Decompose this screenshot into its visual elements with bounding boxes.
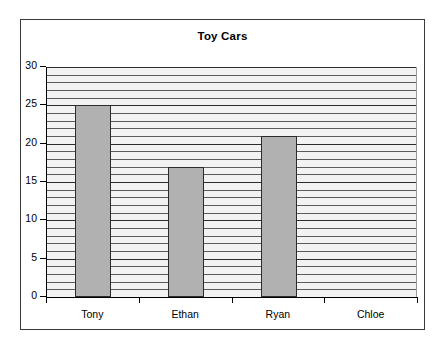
y-axis-tick: 20 — [40, 143, 46, 144]
bar-ryan[interactable] — [261, 136, 297, 297]
bar-ethan[interactable] — [168, 167, 204, 297]
gridline — [47, 98, 416, 99]
x-axis-label-ethan: Ethan — [139, 308, 232, 320]
y-axis-tick-label: 20 — [25, 136, 37, 148]
x-axis-label-tony: Tony — [46, 308, 139, 320]
y-axis-tick-label: 10 — [25, 212, 37, 224]
gridline — [47, 82, 416, 83]
bar-tony[interactable] — [75, 105, 111, 297]
chart-frame: Toy Cars 051015202530 TonyEthanRyanChloe — [20, 19, 425, 330]
y-axis-tick: 25 — [40, 104, 46, 105]
y-axis-tick: 30 — [40, 66, 46, 67]
x-axis-tick — [232, 297, 233, 303]
y-axis-tick: 5 — [40, 258, 46, 259]
y-axis-tick-label: 15 — [25, 174, 37, 186]
gridline — [47, 90, 416, 91]
plot-area — [46, 67, 417, 297]
y-axis-tick-label: 0 — [31, 289, 37, 301]
gridline — [47, 67, 416, 68]
y-axis-tick-label: 30 — [25, 59, 37, 71]
y-axis-tick-label: 25 — [25, 97, 37, 109]
x-axis-tick — [139, 297, 140, 303]
x-axis-tick — [417, 297, 418, 303]
x-axis-tick — [46, 297, 47, 303]
chart-title: Toy Cars — [21, 30, 424, 42]
gridline — [47, 75, 416, 76]
x-axis-label-chloe: Chloe — [324, 308, 417, 320]
y-axis-tick: 15 — [40, 181, 46, 182]
x-axis-label-ryan: Ryan — [232, 308, 325, 320]
y-axis-tick: 10 — [40, 219, 46, 220]
y-axis-tick-label: 5 — [31, 251, 37, 263]
y-axis-line — [46, 67, 47, 298]
x-axis-tick — [324, 297, 325, 303]
